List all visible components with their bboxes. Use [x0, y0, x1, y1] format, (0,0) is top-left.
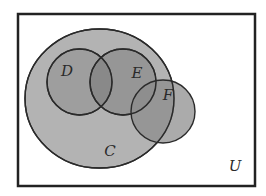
set-f-label: F: [162, 86, 174, 104]
universe-label: U: [229, 157, 243, 175]
set-c-label: C: [104, 142, 116, 160]
set-d-label: D: [60, 62, 73, 80]
venn-diagram: D E F C U: [0, 0, 266, 196]
set-e-label: E: [131, 64, 143, 82]
